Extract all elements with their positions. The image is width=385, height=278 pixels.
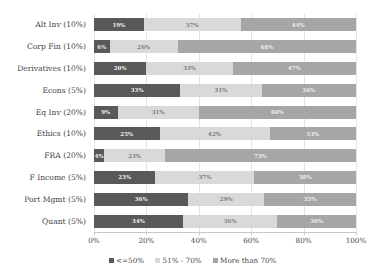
bar-segment[interactable]: 33% — [270, 127, 356, 140]
stacked-bar[interactable]: 23%37%38% — [94, 171, 356, 184]
bar-segment-label: 30% — [310, 218, 323, 224]
x-axis-tick-label: 80% — [296, 236, 312, 245]
bar-segment[interactable]: 6% — [94, 40, 110, 53]
x-axis-tick-mark — [146, 232, 147, 235]
bar-segment[interactable]: 47% — [233, 62, 356, 75]
legend-swatch-icon — [213, 258, 218, 263]
bar-segment[interactable]: 31% — [118, 106, 199, 119]
bar-row[interactable]: 36%29%35% — [94, 188, 356, 210]
bar-segment[interactable]: 73% — [165, 149, 356, 162]
y-axis-tick: Derivatives (10%) — [0, 58, 90, 80]
bar-segment[interactable]: 25% — [94, 127, 160, 140]
bar-segment[interactable]: 30% — [277, 215, 356, 228]
y-axis-tick-label: Port Mgmt (5%) — [24, 195, 86, 204]
stacked-bar[interactable]: 6%26%68% — [94, 40, 356, 53]
bar-segment-label: 37% — [198, 174, 211, 180]
plot-area: 19%37%44%6%26%68%20%33%47%33%31%36%9%31%… — [94, 14, 356, 232]
bar-segment[interactable]: 37% — [144, 18, 241, 31]
bar-segment[interactable]: 20% — [94, 62, 146, 75]
bar-segment-label: 29% — [220, 196, 233, 202]
bar-segment[interactable]: 19% — [94, 18, 144, 31]
y-axis-tick: Ethics (10%) — [0, 123, 90, 145]
x-axis-tick-mark — [94, 232, 95, 235]
stacked-bar[interactable]: 34%36%30% — [94, 215, 356, 228]
bar-segment-label: 42% — [208, 131, 221, 137]
bar-segment-label: 31% — [152, 109, 165, 115]
bar-row[interactable]: 25%42%33% — [94, 123, 356, 145]
bar-segment[interactable]: 33% — [94, 84, 180, 97]
bar-segment[interactable]: 44% — [241, 18, 356, 31]
bar-segment[interactable]: 4% — [94, 149, 104, 162]
y-axis-label-group: Alt Inv (10%)Corp Fin (10%)Derivatives (… — [0, 14, 90, 232]
bar-segment[interactable]: 37% — [155, 171, 254, 184]
legend-label: 51% - 70% — [163, 256, 202, 265]
y-axis-tick: F Income (5%) — [0, 167, 90, 189]
x-axis-label-group: 0%20%40%60%80%100% — [94, 236, 356, 248]
x-axis-line — [94, 232, 356, 233]
bar-row[interactable]: 23%37%38% — [94, 167, 356, 189]
bar-segment[interactable]: 60% — [199, 106, 356, 119]
bar-segment-label: 33% — [306, 131, 319, 137]
y-axis-tick-label: Econs (5%) — [42, 86, 86, 95]
bar-segment[interactable]: 36% — [94, 193, 188, 206]
bar-row[interactable]: 19%37%44% — [94, 14, 356, 36]
bar-segment[interactable]: 34% — [94, 215, 183, 228]
legend-item[interactable]: 51% - 70% — [155, 256, 201, 265]
bar-segment-label: 20% — [114, 65, 127, 71]
bar-segment-label: 60% — [271, 109, 284, 115]
bar-segment[interactable]: 9% — [94, 106, 118, 119]
bar-segment[interactable]: 31% — [180, 84, 261, 97]
stacked-bar[interactable]: 36%29%35% — [94, 193, 356, 206]
stacked-bar-chart: Alt Inv (10%)Corp Fin (10%)Derivatives (… — [0, 0, 385, 278]
bar-segment[interactable]: 26% — [110, 40, 178, 53]
y-axis-tick: Econs (5%) — [0, 79, 90, 101]
bar-segment-label: 33% — [183, 65, 196, 71]
bar-segment-label: 36% — [135, 196, 148, 202]
y-axis-tick: Corp Fin (10%) — [0, 36, 90, 58]
legend-item[interactable]: More than 70% — [213, 256, 277, 265]
stacked-bar[interactable]: 9%31%60% — [94, 106, 356, 119]
bar-segment[interactable]: 36% — [183, 215, 277, 228]
bar-segment-label: 23% — [128, 153, 141, 159]
bar-segment-label: 36% — [302, 87, 315, 93]
bar-segment[interactable]: 35% — [264, 193, 356, 206]
bar-segment-label: 73% — [254, 153, 267, 159]
bar-segment-label: 4% — [95, 153, 104, 159]
y-axis-tick-label: FRA (20%) — [44, 151, 86, 160]
bar-segment[interactable]: 38% — [254, 171, 356, 184]
legend-label: <=50% — [116, 256, 144, 265]
legend-item[interactable]: <=50% — [109, 256, 145, 265]
bar-row[interactable]: 6%26%68% — [94, 36, 356, 58]
bar-row[interactable]: 33%31%36% — [94, 79, 356, 101]
bar-segment[interactable]: 23% — [94, 171, 155, 184]
bar-segment[interactable]: 68% — [178, 40, 356, 53]
bar-segment-label: 34% — [132, 218, 145, 224]
stacked-bar[interactable]: 4%23%73% — [94, 149, 356, 162]
bar-segment-label: 38% — [299, 174, 312, 180]
x-axis-tick-label: 100% — [346, 236, 367, 245]
bar-segment[interactable]: 33% — [146, 62, 232, 75]
bar-segment-label: 31% — [215, 87, 228, 93]
x-axis-tick-mark — [304, 232, 305, 235]
bar-row[interactable]: 20%33%47% — [94, 58, 356, 80]
bar-row[interactable]: 4%23%73% — [94, 145, 356, 167]
x-axis-tick-mark — [199, 232, 200, 235]
x-axis-tick-label: 40% — [191, 236, 207, 245]
bar-segment[interactable]: 36% — [262, 84, 356, 97]
y-axis-tick: Port Mgmt (5%) — [0, 188, 90, 210]
bar-segment[interactable]: 29% — [188, 193, 264, 206]
bar-segment-label: 33% — [131, 87, 144, 93]
stacked-bar[interactable]: 20%33%47% — [94, 62, 356, 75]
bar-row[interactable]: 34%36%30% — [94, 210, 356, 232]
stacked-bar[interactable]: 33%31%36% — [94, 84, 356, 97]
x-axis-tick-label: 0% — [88, 236, 99, 245]
bar-segment[interactable]: 23% — [104, 149, 164, 162]
stacked-bar[interactable]: 25%42%33% — [94, 127, 356, 140]
gridline — [356, 14, 357, 232]
x-axis-tick-mark — [251, 232, 252, 235]
bar-row[interactable]: 9%31%60% — [94, 101, 356, 123]
bar-segment-label: 25% — [120, 131, 133, 137]
stacked-bar[interactable]: 19%37%44% — [94, 18, 356, 31]
bar-segment-label: 47% — [288, 65, 301, 71]
bar-segment[interactable]: 42% — [160, 127, 270, 140]
